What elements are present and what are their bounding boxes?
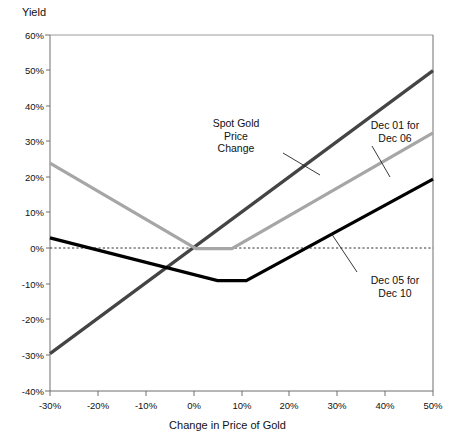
x-tick-label: 10%	[217, 400, 267, 411]
x-tick-label: 40%	[360, 400, 410, 411]
x-tick-label: 20%	[264, 400, 314, 411]
x-tick-label: -20%	[73, 400, 123, 411]
plot-area	[0, 0, 455, 446]
y-tick-label: 40%	[2, 101, 44, 112]
y-tick-label: -10%	[2, 279, 44, 290]
x-tick-label: 50%	[408, 400, 455, 411]
x-tick-label: 0%	[169, 400, 219, 411]
x-tick-label: -30%	[25, 400, 75, 411]
y-tick-label: -30%	[2, 350, 44, 361]
y-tick-label: 50%	[2, 65, 44, 76]
annotation-dec01-dec06: Dec 01 for Dec 06	[352, 119, 438, 144]
x-tick-label: 30%	[312, 400, 362, 411]
y-tick-label: 20%	[2, 172, 44, 183]
y-tick-label: 0%	[2, 243, 44, 254]
series-line-dec05-dec10	[50, 179, 433, 280]
y-axis-ticks	[45, 35, 50, 391]
y-axis-title: Yield	[22, 6, 46, 18]
y-tick-label: 60%	[2, 30, 44, 41]
x-tick-label: -10%	[121, 400, 171, 411]
annotation-spot-gold: Spot Gold Price Change	[191, 117, 281, 155]
annotation-dec05-dec10: Dec 05 for Dec 10	[352, 274, 438, 299]
y-tick-label: 30%	[2, 136, 44, 147]
x-axis-title: Change in Price of Gold	[0, 419, 455, 431]
y-tick-label: -40%	[2, 386, 44, 397]
chart-container: Yield	[0, 0, 455, 446]
y-tick-label: -20%	[2, 314, 44, 325]
series-lines	[50, 71, 433, 354]
y-tick-label: 10%	[2, 207, 44, 218]
x-axis-ticks	[50, 391, 433, 396]
